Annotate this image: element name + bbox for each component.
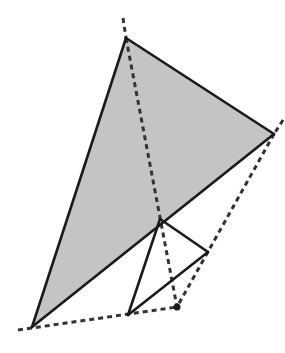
diagram-canvas bbox=[0, 0, 285, 353]
dashed-line bbox=[123, 18, 126, 38]
segment-pq bbox=[160, 219, 208, 252]
point-dot bbox=[174, 304, 181, 311]
geometry-diagram bbox=[0, 0, 285, 353]
dashed-line bbox=[274, 120, 283, 134]
